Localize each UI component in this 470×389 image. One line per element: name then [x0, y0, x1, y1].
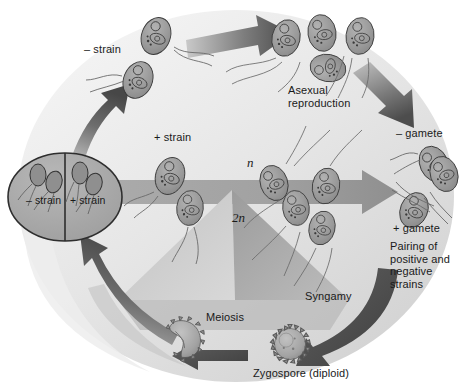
chlamydomonas-life-cycle-figure: – strain Asexual reproduction – gamete +…	[0, 0, 470, 389]
label-plus-gamete: + gamete	[393, 222, 440, 235]
label-haploid-n: n	[247, 157, 254, 170]
inset-label-plus-strain: + strain	[70, 194, 106, 207]
label-asexual-reproduction: Asexual reproduction	[288, 84, 350, 109]
label-minus-strain: – strain	[84, 43, 121, 56]
label-diploid-2n: 2n	[232, 212, 245, 225]
label-minus-gamete: – gamete	[396, 127, 443, 140]
label-zygospore: Zygospore (diploid)	[253, 367, 349, 380]
label-plus-strain: + strain	[154, 131, 191, 144]
inset-label-minus-strain: – strain	[26, 194, 61, 207]
label-syngamy: Syngamy	[305, 290, 352, 303]
label-meiosis: Meiosis	[206, 311, 244, 324]
label-pairing: Pairing of positive and negative strains	[390, 240, 450, 290]
